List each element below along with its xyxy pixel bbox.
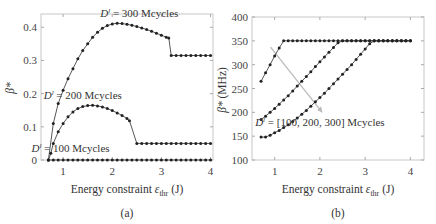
- data-point-marker: [382, 39, 385, 42]
- y-tick-label: 400: [232, 11, 249, 23]
- data-point-marker: [364, 39, 367, 42]
- data-point-marker: [121, 159, 124, 162]
- data-point-marker: [368, 42, 371, 45]
- data-point-marker: [194, 159, 197, 162]
- data-point-marker: [204, 142, 207, 145]
- data-point-marker: [76, 57, 79, 60]
- y-tick-label: 150: [232, 130, 249, 142]
- y-tick-label: 250: [232, 83, 249, 95]
- panel-caption: (a): [121, 207, 134, 220]
- data-point-marker: [194, 142, 197, 145]
- data-point-marker: [337, 41, 340, 44]
- series-annotation: Dl = 300 Mcycles: [99, 7, 178, 19]
- data-point-marker: [86, 42, 89, 45]
- data-point-marker: [314, 100, 317, 103]
- data-point-marker: [71, 159, 74, 162]
- data-point-marker: [346, 68, 349, 71]
- axes-frame: [252, 17, 424, 160]
- data-point-marker: [300, 39, 303, 42]
- data-point-marker: [170, 142, 173, 145]
- data-point-marker: [391, 39, 394, 42]
- data-point-marker: [101, 159, 104, 162]
- figure: 123400.10.20.30.4Dl = 300 McyclesDl = 20…: [0, 0, 436, 224]
- x-tick-label: 2: [110, 165, 116, 177]
- data-point-marker: [355, 58, 358, 61]
- data-point-marker: [332, 39, 335, 42]
- x-tick-label: 4: [408, 165, 414, 177]
- data-point-marker: [323, 56, 326, 59]
- data-point-marker: [341, 39, 344, 42]
- data-point-marker: [305, 39, 308, 42]
- data-point-marker: [180, 159, 183, 162]
- data-series: [47, 159, 212, 162]
- data-point-marker: [62, 122, 65, 125]
- data-point-marker: [116, 159, 119, 162]
- panel-caption: (b): [331, 207, 345, 220]
- data-point-marker: [368, 39, 371, 42]
- data-point-marker: [404, 39, 407, 42]
- data-point-marker: [184, 142, 187, 145]
- data-point-marker: [150, 159, 153, 162]
- x-tick-label: 2: [317, 165, 323, 177]
- data-point-marker: [314, 65, 317, 68]
- data-point-marker: [91, 104, 94, 107]
- data-point-marker: [273, 55, 276, 58]
- data-point-marker: [62, 159, 65, 162]
- data-point-marker: [170, 159, 173, 162]
- data-point-marker: [86, 104, 89, 107]
- data-point-marker: [111, 109, 114, 112]
- data-point-marker: [269, 63, 272, 66]
- data-point-marker: [86, 159, 89, 162]
- x-tick-label: 3: [362, 165, 368, 177]
- data-point-marker: [305, 109, 308, 112]
- data-point-marker: [121, 114, 124, 117]
- data-point-marker: [373, 39, 376, 42]
- data-point-marker: [57, 159, 60, 162]
- x-tick-label: 4: [208, 165, 214, 177]
- data-point-marker: [264, 136, 267, 139]
- data-point-marker: [106, 159, 109, 162]
- axes-frame: [41, 14, 213, 160]
- data-point-marker: [359, 53, 362, 56]
- data-point-marker: [111, 22, 114, 25]
- data-point-marker: [101, 27, 104, 30]
- data-point-marker: [209, 159, 212, 162]
- y-tick-label: 0.3: [23, 54, 37, 66]
- data-point-marker: [52, 122, 55, 125]
- data-point-marker: [128, 119, 131, 122]
- data-point-marker: [106, 107, 109, 110]
- data-point-marker: [300, 80, 303, 83]
- data-point-marker: [160, 159, 163, 162]
- x-tick-label: 3: [159, 165, 165, 177]
- x-tick-label: 1: [272, 165, 278, 177]
- data-point-marker: [81, 159, 84, 162]
- data-point-marker: [291, 89, 294, 92]
- data-point-marker: [377, 39, 380, 42]
- data-point-marker: [135, 25, 138, 28]
- data-point-marker: [170, 54, 173, 57]
- data-point-marker: [106, 24, 109, 27]
- series-annotation: Dl = [100, 200, 300] Mcycles: [254, 116, 384, 128]
- data-point-marker: [386, 39, 389, 42]
- data-point-marker: [67, 159, 70, 162]
- data-point-marker: [145, 142, 148, 145]
- y-axis-label: β*: [4, 82, 17, 95]
- data-point-marker: [209, 142, 212, 145]
- data-point-marker: [91, 36, 94, 39]
- data-point-marker: [150, 30, 153, 33]
- data-point-marker: [160, 142, 163, 145]
- data-point-marker: [175, 159, 178, 162]
- y-tick-label: 100: [232, 154, 249, 166]
- data-point-marker: [323, 39, 326, 42]
- data-point-marker: [359, 39, 362, 42]
- data-point-marker: [145, 159, 148, 162]
- data-point-marker: [364, 47, 367, 50]
- data-series: [260, 39, 412, 121]
- data-point-marker: [57, 130, 60, 133]
- y-axis-label: β* (MHz): [216, 67, 229, 114]
- data-point-marker: [332, 82, 335, 85]
- data-point-marker: [140, 26, 143, 29]
- data-point-marker: [323, 92, 326, 95]
- data-point-marker: [189, 142, 192, 145]
- data-point-marker: [116, 111, 119, 114]
